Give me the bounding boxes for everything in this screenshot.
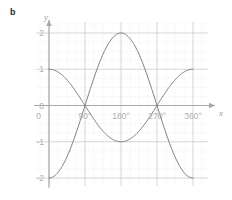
y-tick-label-0: 2: [39, 28, 44, 38]
part-label: b: [10, 7, 16, 17]
y-axis-name: y: [43, 12, 48, 22]
x-tick-label-3: 270°: [148, 111, 166, 121]
y-tick-label-3: -1: [36, 137, 44, 147]
x-tick-label-0: 0: [36, 111, 41, 121]
x-axis-name: x: [218, 108, 223, 118]
major-gridlines: [36, 22, 208, 186]
trig-graph-plot: 210-1-2090°180°270°360° yx: [0, 0, 232, 200]
y-tick-label-2: 0: [39, 101, 44, 111]
minor-gridlines: [36, 22, 208, 186]
x-tick-label-1: 90°: [79, 111, 92, 121]
figure-container: b 210-1-2090°180°270°360° yx: [0, 0, 232, 200]
x-tick-label-2: 180°: [112, 111, 130, 121]
y-tick-label-4: -2: [36, 173, 44, 183]
y-tick-label-1: 1: [39, 64, 44, 74]
axes: [34, 20, 215, 188]
axis-name-labels: yx: [43, 12, 223, 118]
x-tick-label-4: 360°: [184, 111, 202, 121]
